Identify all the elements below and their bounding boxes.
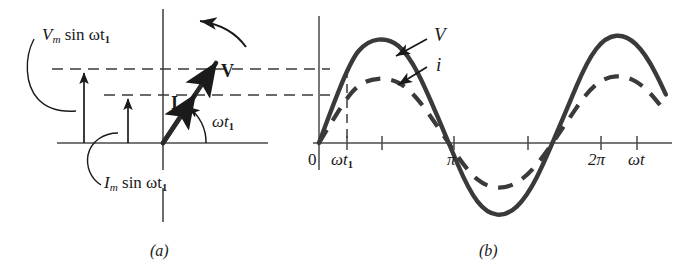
label-vm-sin-wt1-sub-m: m <box>52 33 60 45</box>
waveform-axis-label: ωt <box>628 151 645 168</box>
vm-label-leader <box>27 39 76 111</box>
panel-b-group <box>313 16 672 215</box>
angle-label-wt1-sub: 1 <box>229 121 234 132</box>
label-vm-sin-wt1-v: V <box>42 25 52 44</box>
phasor-i-label: I <box>171 94 178 112</box>
label-im-sin-wt1-sin: sin ωt <box>118 173 162 192</box>
waveform-tick-label-wt1-text: ωt <box>331 150 348 169</box>
waveform-tick-label-pi: π <box>447 151 456 168</box>
waveform-curve-v-label: V <box>434 25 446 44</box>
label-im-sin-wt1-sub-m: m <box>110 181 118 193</box>
label-im-sin-wt1: Im sin ωt1 <box>104 174 167 193</box>
waveform-tick-label-wt1: ωt1 <box>331 151 353 170</box>
waveform-curve-i <box>319 76 666 187</box>
panel-a-caption: (a) <box>150 243 169 259</box>
waveform-tick-label-wt1-sub: 1 <box>348 159 353 170</box>
rotation-direction-arrow <box>200 21 246 47</box>
label-vm-sin-wt1-sin: sin ωt <box>61 25 105 44</box>
label-im-sin-wt1-sub-1: 1 <box>162 182 167 193</box>
label-vm-sin-wt1: Vm sin ωt1 <box>42 26 110 45</box>
phasor-i-arrow <box>163 95 195 143</box>
angle-label-wt1-text: ωt <box>212 112 229 131</box>
angle-label-wt1: ωt1 <box>212 113 234 132</box>
phasor-v-label: V <box>221 62 234 80</box>
panel-b-caption: (b) <box>479 243 498 259</box>
label-vm-sin-wt1-sub-1: 1 <box>105 34 110 45</box>
waveform-tick-label-2pi: 2π <box>588 151 605 168</box>
waveform-curve-i-label: i <box>436 55 441 74</box>
waveform-origin-label: 0 <box>308 151 317 168</box>
waveform-curve-v <box>319 36 666 215</box>
figure-container: Vm sin ωt1 Im sin ωt1 V I ωt1 (a) 0 ωt1 … <box>0 0 681 276</box>
angle-arc-wt1 <box>188 107 206 143</box>
